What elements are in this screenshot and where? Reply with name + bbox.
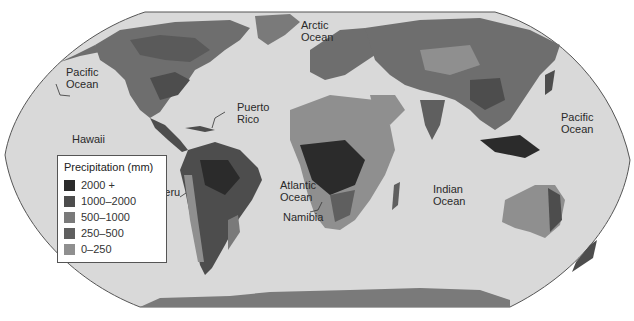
legend-title: Precipitation (mm) — [64, 161, 160, 173]
legend-item: 2000 + — [64, 177, 160, 193]
legend-swatch — [64, 212, 75, 223]
legend-swatch — [64, 196, 75, 207]
label-namibia: Namibia — [283, 211, 323, 223]
legend-item: 1000–2000 — [64, 193, 160, 209]
legend-item: 250–500 — [64, 225, 160, 241]
precipitation-legend: Precipitation (mm) 2000 + 1000–2000 500–… — [57, 155, 167, 263]
label-pacific-west: Pacific Ocean — [66, 66, 98, 90]
label-hawaii: Hawaii — [72, 133, 105, 145]
legend-item: 0–250 — [64, 241, 160, 257]
legend-swatch — [64, 180, 75, 191]
legend-swatch — [64, 244, 75, 255]
label-puerto-rico: Puerto Rico — [237, 101, 269, 125]
legend-item: 500–1000 — [64, 209, 160, 225]
label-indian-ocean: Indian Ocean — [433, 183, 465, 207]
legend-swatch — [64, 228, 75, 239]
label-arctic-ocean: Arctic Ocean — [301, 19, 333, 43]
label-atlantic-ocean: Atlantic Ocean — [280, 179, 316, 203]
label-pacific-east: Pacific Ocean — [561, 111, 593, 135]
